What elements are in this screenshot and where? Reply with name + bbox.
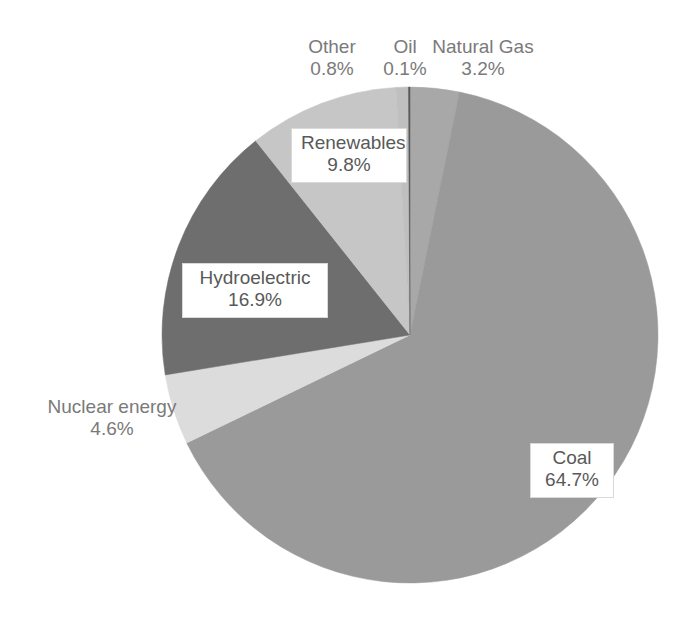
pie-label-natural-gas-value: 3.2%: [424, 58, 542, 80]
pie-label-coal-value: 64.7%: [540, 469, 604, 491]
pie-label-renewables: Renewables 9.8%: [291, 128, 407, 183]
pie-label-nuclear-energy: Nuclear energy 4.6%: [29, 396, 195, 441]
pie-label-nuclear-energy-name: Nuclear energy: [29, 396, 195, 418]
pie-slice-group: [162, 87, 658, 583]
pie-label-other-name: Other: [296, 36, 368, 58]
pie-chart-canvas: [0, 0, 693, 622]
pie-label-natural-gas-name: Natural Gas: [424, 36, 542, 58]
pie-label-hydroelectric-name: Hydroelectric: [192, 267, 318, 289]
pie-label-nuclear-energy-value: 4.6%: [29, 418, 195, 440]
pie-label-hydroelectric: Hydroelectric 16.9%: [182, 263, 328, 318]
pie-chart: Other 0.8% Oil 0.1% Natural Gas 3.2% Ren…: [0, 0, 693, 622]
pie-label-coal-name: Coal: [540, 447, 604, 469]
pie-label-other-value: 0.8%: [296, 58, 368, 80]
pie-label-other: Other 0.8%: [296, 36, 368, 81]
pie-label-natural-gas: Natural Gas 3.2%: [424, 36, 542, 81]
pie-label-renewables-value: 9.8%: [301, 154, 397, 176]
pie-label-hydroelectric-value: 16.9%: [192, 289, 318, 311]
pie-label-renewables-name: Renewables: [301, 132, 397, 154]
pie-label-coal: Coal 64.7%: [530, 443, 614, 498]
